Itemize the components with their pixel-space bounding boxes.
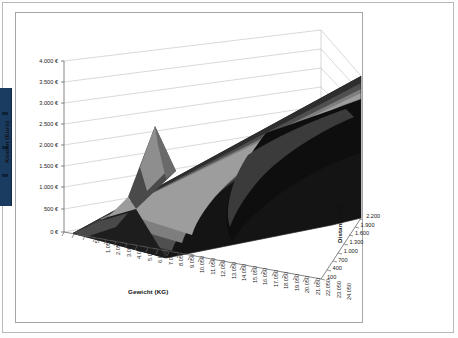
y-tick-label: 500 € (18, 206, 58, 212)
x-tick-label: 20.050 (304, 276, 310, 310)
x-tick-label: 5.050 (147, 247, 153, 281)
edge-marker-tick (2, 174, 8, 177)
y-tick-label: 1.000 € (18, 184, 58, 190)
y-tick-label: 3.500 € (18, 79, 58, 85)
x-tick-label: 21.050 (315, 278, 321, 312)
y-tick-label: 2.000 € (18, 142, 58, 148)
x-tick-label: 22.050 (325, 279, 331, 313)
z-tick-label: 700 (338, 257, 347, 263)
x-tick-label: 14.050 (241, 264, 247, 298)
y-tick-label: 2.500 € (18, 121, 58, 127)
x-tick-label: 15.050 (252, 266, 258, 300)
y-tick-label: 3.000 € (18, 100, 58, 106)
y-tick-label: 1.500 € (18, 163, 58, 169)
z-tick-label: 1.000 (344, 248, 358, 254)
x-axis-title: Gewicht (KG) (128, 288, 168, 295)
z-tick-label: 100 (327, 274, 336, 280)
y-tick-label: 4.000 € (18, 58, 58, 64)
x-tick-label: 10.050 (199, 256, 205, 290)
y-tick-label: 0 € (18, 229, 58, 235)
value-axis-ticks (61, 61, 64, 232)
x-tick-label: 13.050 (231, 262, 237, 296)
x-tick-label: 19.050 (294, 274, 300, 308)
y-axis-title: Kosten (Euro) (3, 121, 10, 163)
x-tick-label: 6.050 (157, 249, 163, 283)
edge-marker-tick (2, 112, 8, 115)
x-tick-label: 24.050 (346, 283, 352, 317)
z-tick-label: 1.900 (361, 222, 375, 228)
x-tick-label: 18.050 (283, 272, 289, 306)
x-tick-label: 16.050 (262, 268, 268, 302)
x-tick-label: 1.050 (105, 239, 111, 273)
scanned-page: 4.000 € 3.500 € 3.000 € 2.500 € 2.000 € … (0, 0, 458, 338)
x-tick-label: 9.050 (189, 254, 195, 288)
x-tick-label: 50 (94, 237, 100, 271)
chart-frame: 4.000 € 3.500 € 3.000 € 2.500 € 2.000 € … (15, 12, 363, 323)
z-tick-label: 1.600 (355, 230, 369, 236)
z-tick-label: 1.300 (349, 239, 363, 245)
z-tick-label: 2.200 (366, 213, 380, 219)
x-tick-label: 12.050 (220, 260, 226, 294)
x-tick-label: 3.050 (126, 243, 132, 277)
x-tick-label: 11.050 (210, 258, 216, 292)
z-tick-label: 400 (333, 265, 342, 271)
x-tick-label: 2.050 (115, 241, 121, 275)
z-axis-title: Distanz (KM) (336, 204, 343, 243)
x-tick-label: 7.050 (168, 251, 174, 285)
x-tick-label: 4.050 (136, 245, 142, 279)
x-tick-label: 23.050 (336, 281, 342, 315)
x-tick-label: 17.050 (273, 270, 279, 304)
x-tick-label: 8.050 (178, 252, 184, 286)
